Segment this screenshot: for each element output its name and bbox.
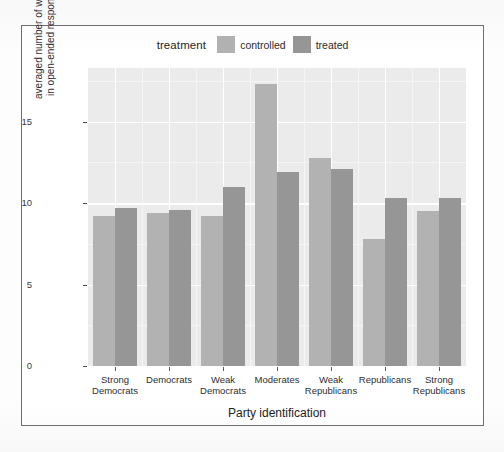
y-tick-mark-0 xyxy=(83,366,87,367)
legend-item-treated[interactable]: treated xyxy=(293,36,349,53)
chart-legend: treatment controlled treated xyxy=(21,36,484,53)
x-tick-label-6: Strong Republicans xyxy=(406,374,472,396)
y-tick-mark-5 xyxy=(83,285,87,286)
bar-treated-3[interactable] xyxy=(277,172,299,366)
bar-controlled-4[interactable] xyxy=(309,158,331,366)
bar-treated-0[interactable] xyxy=(115,208,137,366)
legend-title: treatment xyxy=(157,39,206,51)
x-tick-mark-4 xyxy=(331,367,332,371)
bar-treated-6[interactable] xyxy=(439,198,461,366)
bar-treated-5[interactable] xyxy=(385,198,407,366)
bar-treated-4[interactable] xyxy=(331,169,353,366)
y-tick-label-10: 10 xyxy=(2,197,32,208)
bar-controlled-1[interactable] xyxy=(147,213,169,366)
bar-controlled-5[interactable] xyxy=(363,239,385,366)
bar-controlled-0[interactable] xyxy=(93,216,115,366)
chart-page: treatment controlled treated averaged nu… xyxy=(0,0,504,452)
y-tick-label-5: 5 xyxy=(2,279,32,290)
legend-item-controlled[interactable]: controlled xyxy=(217,36,286,53)
y-tick-mark-10 xyxy=(83,203,87,204)
y-axis-title: averaged number of words in open-ended r… xyxy=(33,0,57,147)
bar-series-container xyxy=(88,68,466,366)
legend-label-controlled: controlled xyxy=(240,39,286,51)
y-tick-mark-15 xyxy=(83,122,87,123)
bar-controlled-2[interactable] xyxy=(201,216,223,366)
x-tick-mark-2 xyxy=(223,367,224,371)
legend-swatch-controlled xyxy=(217,36,235,53)
plot-panel xyxy=(88,68,466,366)
bar-controlled-3[interactable] xyxy=(255,84,277,366)
x-tick-mark-1 xyxy=(169,367,170,371)
legend-swatch-treated xyxy=(293,36,311,53)
bar-treated-1[interactable] xyxy=(169,210,191,366)
y-tick-label-0: 0 xyxy=(2,360,32,371)
bar-treated-2[interactable] xyxy=(223,187,245,366)
x-axis-title: Party identification xyxy=(88,406,466,420)
x-tick-mark-0 xyxy=(115,367,116,371)
legend-label-treated: treated xyxy=(316,39,349,51)
x-tick-mark-5 xyxy=(385,367,386,371)
y-tick-label-15: 15 xyxy=(2,116,32,127)
bar-controlled-6[interactable] xyxy=(417,211,439,366)
x-tick-mark-3 xyxy=(277,367,278,371)
x-tick-mark-6 xyxy=(439,367,440,371)
